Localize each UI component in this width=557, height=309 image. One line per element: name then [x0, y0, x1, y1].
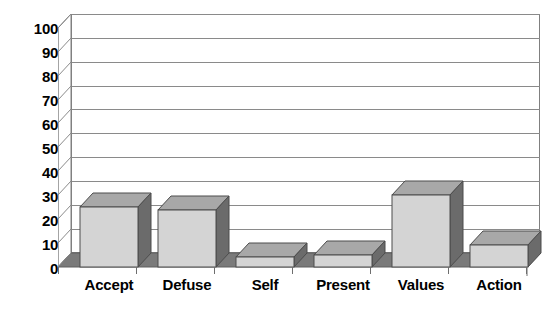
bar-chart: 100 90 80 70 60 50 40 30 20 10 0 — [0, 0, 557, 309]
x-axis: Accept Defuse Self Present Values Action — [58, 276, 540, 302]
y-tick-label: 90 — [2, 45, 58, 60]
bar-values-shape — [392, 181, 463, 267]
y-tick-label: 10 — [2, 237, 58, 252]
bar-defuse-shape — [158, 196, 229, 267]
bar-self-shape — [236, 243, 307, 267]
y-tick-label: 30 — [2, 189, 58, 204]
bar-accept[interactable] — [80, 206, 138, 266]
bar-defuse[interactable] — [158, 209, 216, 266]
y-tick-label: 50 — [2, 141, 58, 156]
x-tick-label-accept: Accept — [70, 276, 148, 294]
bar-action[interactable] — [470, 244, 528, 266]
bar-present-shape — [314, 241, 385, 267]
x-tickmark — [370, 267, 371, 274]
x-tickmark — [292, 267, 293, 274]
x-tick-label-defuse: Defuse — [148, 276, 226, 294]
x-tickmark — [526, 267, 527, 274]
y-tick-label: 70 — [2, 93, 58, 108]
y-axis: 100 90 80 70 60 50 40 30 20 10 0 — [0, 0, 58, 309]
x-tickmark — [214, 267, 215, 274]
y-tick-label: 20 — [2, 213, 58, 228]
plot-area — [58, 14, 540, 282]
x-tickmark — [58, 267, 59, 274]
y-tick-label: 40 — [2, 165, 58, 180]
x-tickmark — [448, 267, 449, 274]
bar-present[interactable] — [314, 254, 372, 266]
bar-self[interactable] — [236, 256, 294, 266]
y-tick-label: 100 — [2, 21, 58, 36]
y-tick-label: 0 — [2, 261, 58, 276]
x-tickmark — [136, 267, 137, 274]
x-tick-label-self: Self — [226, 276, 304, 294]
bars-group — [58, 14, 540, 282]
y-tick-label: 80 — [2, 69, 58, 84]
bar-values[interactable] — [392, 194, 450, 266]
bar-action-shape — [470, 231, 541, 267]
y-tick-label: 60 — [2, 117, 58, 132]
x-tick-label-present: Present — [304, 276, 382, 294]
x-tick-label-values: Values — [382, 276, 460, 294]
bar-accept-shape — [80, 193, 151, 267]
x-tick-label-action: Action — [460, 276, 538, 294]
